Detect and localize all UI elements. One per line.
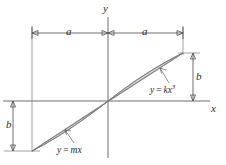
dimension-label-b-right: b — [196, 71, 202, 82]
dimension-label-a-right: a — [142, 26, 148, 37]
curve-label-cubic: y=kx3 — [150, 84, 175, 96]
figure-svg — [0, 0, 226, 165]
leader-line-cubic — [160, 68, 169, 83]
curve-label-cubic-y: y — [150, 85, 154, 95]
dimension-b-right — [191, 53, 196, 101]
axes — [3, 17, 210, 158]
leader-lines — [65, 68, 169, 143]
curve-label-cubic-expr: kx — [164, 85, 172, 95]
curve-label-cubic-equals: = — [156, 85, 161, 95]
curve-label-linear-expr: mx — [71, 145, 82, 155]
curve-label-cubic-exponent: 3 — [172, 83, 175, 90]
curve-label-linear-equals: = — [63, 145, 68, 155]
y-axis-label: y — [103, 3, 108, 14]
figure-canvas: y x a a b b y=kx3 y=mx — [0, 0, 226, 165]
curve-label-linear-y: y — [57, 145, 61, 155]
curve-label-linear: y=mx — [57, 146, 82, 156]
leader-line-linear — [65, 130, 74, 143]
dimension-label-a-left: a — [66, 26, 72, 37]
dimension-label-b-left: b — [6, 119, 12, 130]
x-axis-label: x — [211, 103, 216, 114]
